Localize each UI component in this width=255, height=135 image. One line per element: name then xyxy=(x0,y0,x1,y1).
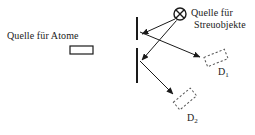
detector-1-dashed-box xyxy=(204,49,228,67)
label-atom-source: Quelle für Atome xyxy=(7,30,79,42)
label-detector-2-subscript: 2 xyxy=(194,117,198,125)
atom-source-rectangle xyxy=(70,46,93,54)
label-detector-2: D2 xyxy=(187,112,198,123)
arrow-lower-slit-to-detector-2 xyxy=(140,61,173,94)
label-detector-1: D1 xyxy=(218,66,229,77)
label-detector-1-subscript: 1 xyxy=(225,71,229,79)
circled-x-icon xyxy=(174,8,186,20)
scattering-diagram: Quelle für Atome Quelle für Streuobjekte… xyxy=(0,0,255,135)
label-scatter-source-line1: Quelle für xyxy=(191,7,233,18)
arrow-source-to-upper-slit xyxy=(142,19,175,34)
label-scatter-source: Quelle für Streuobjekte xyxy=(191,7,246,31)
label-scatter-source-line2: Streuobjekte xyxy=(191,19,246,31)
arrow-upper-slit-to-detector-1 xyxy=(140,32,200,57)
detector-2-dashed-box xyxy=(173,88,196,110)
